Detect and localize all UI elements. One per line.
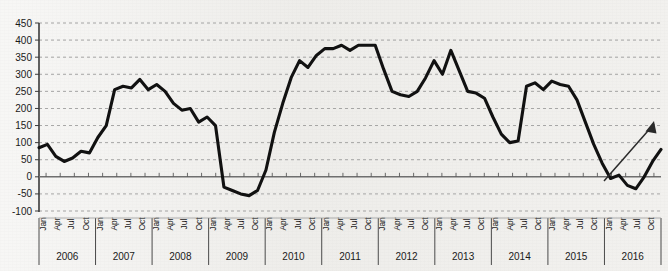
x-axis-quarter-label: Jul (66, 218, 76, 229)
y-axis-label-250: 250 (15, 86, 32, 97)
x-axis-quarter-label: Apr (505, 217, 515, 230)
x-axis-quarter-label: Apr (392, 217, 402, 230)
x-axis-quarter-label: Jan (434, 217, 444, 231)
y-axis-label--100: -100 (12, 206, 32, 217)
x-axis-quarter-label: Apr (222, 217, 232, 230)
x-axis-quarter-label: Jan (95, 217, 105, 231)
x-axis-quarter-label: Jan (38, 217, 48, 231)
x-axis-quarter-label: Oct (363, 217, 373, 231)
y-axis-label--50: -50 (18, 188, 33, 199)
x-axis-quarter-label: Apr (109, 217, 119, 230)
trend-arrow-head (646, 121, 657, 134)
x-axis-quarter-label: Jan (208, 217, 218, 231)
x-axis-quarter-label: Oct (476, 217, 486, 231)
x-axis-quarter-label: Jul (632, 218, 642, 229)
x-axis-quarter-label: Jul (236, 218, 246, 229)
x-axis-quarter-label: Oct (420, 217, 430, 231)
chart-container: 450400350300250200150100500-50-100JanApr… (0, 0, 668, 271)
y-axis-label-200: 200 (15, 103, 32, 114)
x-axis-quarter-label: Oct (533, 217, 543, 231)
x-axis-quarter-label: Jan (264, 217, 274, 231)
x-axis-year-label: 2007 (113, 251, 136, 262)
x-axis-quarter-label: Oct (646, 217, 656, 231)
x-axis-quarter-label: Oct (194, 217, 204, 231)
y-axis-label-50: 50 (21, 154, 33, 165)
x-axis-quarter-label: Apr (165, 217, 175, 230)
x-axis-quarter-label: Oct (250, 217, 260, 231)
x-axis-quarter-label: Jul (293, 218, 303, 229)
data-line-series-1 (39, 45, 661, 195)
x-axis-quarter-label: Apr (448, 217, 458, 230)
x-axis-year-label: 2010 (282, 251, 305, 262)
y-axis-label-100: 100 (15, 137, 32, 148)
x-axis-quarter-label: Apr (278, 217, 288, 230)
x-axis-quarter-label: Jan (490, 217, 500, 231)
x-axis-quarter-label: Jul (179, 218, 189, 229)
x-axis-quarter-label: Jul (123, 218, 133, 229)
x-axis-quarter-label: Jan (604, 217, 614, 231)
y-axis-label-0: 0 (26, 171, 32, 182)
x-axis-quarter-label: Jan (547, 217, 557, 231)
x-axis-year-label: 2011 (339, 251, 361, 262)
x-axis-quarter-label: Jul (519, 218, 529, 229)
x-axis-year-label: 2012 (395, 251, 418, 262)
x-axis-quarter-label: Jan (151, 217, 161, 231)
y-axis-label-300: 300 (15, 69, 32, 80)
line-chart: 450400350300250200150100500-50-100JanApr… (0, 0, 668, 271)
x-axis-quarter-label: Apr (52, 217, 62, 230)
x-axis-quarter-label: Jul (462, 218, 472, 229)
x-axis-quarter-label: Apr (561, 217, 571, 230)
x-axis-quarter-label: Oct (137, 217, 147, 231)
x-axis-year-label: 2008 (169, 251, 192, 262)
x-axis-quarter-label: Jul (349, 218, 359, 229)
x-axis-year-label: 2009 (226, 251, 249, 262)
y-axis-label-150: 150 (15, 120, 32, 131)
x-axis-year-label: 2014 (509, 251, 532, 262)
x-axis-quarter-label: Jul (406, 218, 416, 229)
y-axis-label-450: 450 (15, 18, 32, 29)
y-axis-label-400: 400 (15, 35, 32, 46)
x-axis-quarter-label: Apr (618, 217, 628, 230)
x-axis-year-label: 2016 (622, 251, 645, 262)
x-axis-quarter-label: Oct (307, 217, 317, 231)
y-axis-label-350: 350 (15, 52, 32, 63)
x-axis-year-label: 2013 (452, 251, 475, 262)
x-axis-quarter-label: Jan (321, 217, 331, 231)
x-axis-quarter-label: Jan (377, 217, 387, 231)
x-axis-quarter-label: Apr (335, 217, 345, 230)
x-axis-year-label: 2015 (565, 251, 588, 262)
x-axis-quarter-label: Oct (81, 217, 91, 231)
x-axis-quarter-label: Oct (589, 217, 599, 231)
x-axis-year-label: 2006 (56, 251, 79, 262)
x-axis-quarter-label: Jul (575, 218, 585, 229)
